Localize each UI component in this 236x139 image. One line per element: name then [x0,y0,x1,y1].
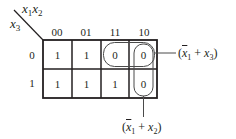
kmap-grid [0,0,236,139]
row-var-sub3: 3 [16,23,21,33]
cell-r1-c11: 1 [112,78,118,90]
cell-r1-c10: 0 [141,78,147,90]
cell-r0-c10: 0 [141,49,147,61]
op-plus: + [135,120,148,134]
row-header-1: 1 [29,77,35,89]
cell-r0-c00: 1 [55,49,61,61]
column-variables-label: x1x2 [22,3,43,19]
cell-r1-c00: 1 [55,78,61,90]
cell-r0-c11: 0 [112,49,118,61]
column-header-10: 10 [139,26,150,38]
column-header-01: 01 [81,26,92,38]
group-expression-column: (x1 + x2) [122,121,161,138]
column-header-00: 00 [52,26,63,38]
row-variable-label: x3 [10,18,20,34]
cell-r0-c01: 1 [84,49,90,61]
paren-close: ) [157,120,161,134]
op-plus: + [191,46,204,60]
col-var-sub2: 2 [38,8,43,18]
paren-close: ) [213,46,217,60]
cell-r1-c01: 1 [84,78,90,90]
row-header-0: 0 [29,49,35,61]
column-header-11: 11 [110,26,121,38]
karnaugh-map: x1x2 x3 00 01 11 10 0 1 1 1 0 0 1 1 1 0 … [0,0,236,139]
group-expression-row: (x1 + x3) [178,47,217,64]
